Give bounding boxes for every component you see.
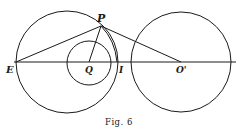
label-p: P bbox=[96, 12, 106, 25]
label-o-prime: O' bbox=[176, 65, 187, 75]
label-i: I bbox=[118, 65, 124, 75]
segment-pe bbox=[16, 26, 101, 62]
figure-caption: Fig. 6 bbox=[105, 117, 133, 127]
figure-6-diagram: P E Q I O' Fig. 6 bbox=[0, 0, 243, 130]
label-q: Q bbox=[85, 65, 93, 75]
label-e: E bbox=[5, 64, 14, 75]
inner-circle bbox=[67, 41, 111, 85]
